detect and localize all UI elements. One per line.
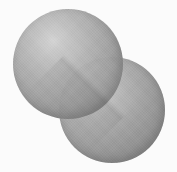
atom-sphere-upper-left xyxy=(13,9,123,119)
molecular-model-figure xyxy=(0,0,177,172)
